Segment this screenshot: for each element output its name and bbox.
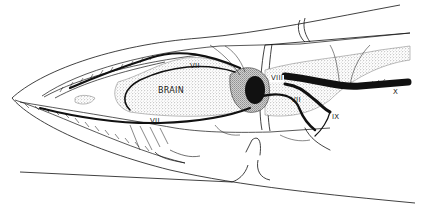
label-vii-posterior: VII bbox=[291, 97, 301, 104]
label-ix: IX bbox=[332, 114, 339, 121]
label-brain: BRAIN bbox=[158, 87, 184, 95]
olfactory-bulb bbox=[75, 95, 95, 104]
ganglion-core bbox=[245, 76, 265, 104]
label-viii: VIII bbox=[270, 75, 284, 82]
lower-lip bbox=[170, 150, 200, 157]
label-vii-upper: VII bbox=[190, 63, 200, 70]
label-vii-lower: VII bbox=[150, 118, 160, 125]
fish-head-dissection-diagram bbox=[0, 0, 421, 207]
label-x: X bbox=[393, 89, 398, 96]
